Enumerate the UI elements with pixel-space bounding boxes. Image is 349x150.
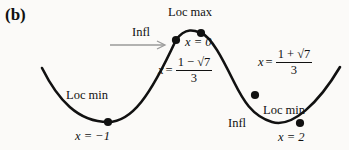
inflection-right-fraction: 1 + √7 3 [276,48,313,77]
point-inflection-left [172,36,180,44]
loc-min-left-x-value: x = −1 [75,130,110,143]
inflection-left-expr-variable: x [158,63,164,78]
inflection-right-expr-variable: x [258,55,264,70]
inflection-left-fraction: 1 − √7 3 [176,56,213,85]
loc-max-label: Loc max [168,6,212,19]
loc-min-right-label: Loc min [263,104,305,117]
panel-label: (b) [5,6,26,23]
inflection-right-label: Infl [228,117,246,130]
loc-min-left-label: Loc min [66,89,108,102]
loc-min-right-x-value: x = 2 [278,131,304,144]
inflection-right-expression: x = 1 + √7 3 [258,48,312,77]
calculus-curve-figure: (b) Loc max x = 0 Infl Loc min x = −1 Lo… [0,0,349,150]
inflection-left-numerator: 1 − √7 [176,56,213,69]
inflection-right-numerator: 1 + √7 [276,48,313,61]
inflection-left-expr-equals: = [166,63,173,78]
point-local-minimum-right [296,119,304,127]
annotation-arrow-icon [110,41,165,49]
inflection-right-expr-equals: = [266,55,273,70]
inflection-left-denominator: 3 [189,72,199,85]
point-inflection-right [251,91,259,99]
inflection-right-denominator: 3 [289,64,299,77]
inflection-left-expression: x = 1 − √7 3 [158,56,212,85]
inflection-left-label: Infl [132,26,150,39]
loc-max-x-value: x = 0 [185,36,211,49]
point-local-minimum-left [104,118,112,126]
